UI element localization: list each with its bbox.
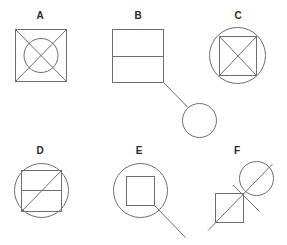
- figure-d-label: D: [36, 146, 43, 156]
- figure-b[interactable]: [113, 30, 217, 138]
- figure-e-label: E: [136, 146, 143, 156]
- figure-e[interactable]: [114, 164, 186, 238]
- figure-f-cross-line: [233, 185, 260, 212]
- figure-c-label: C: [234, 11, 241, 21]
- figure-e-tail-line: [155, 206, 186, 238]
- figure-c[interactable]: [210, 28, 266, 84]
- figure-a-label: A: [36, 11, 43, 21]
- figure-f-circle: [240, 162, 274, 196]
- figure-e-square: [127, 177, 155, 206]
- figure-a[interactable]: [16, 30, 67, 82]
- figure-b-label: B: [134, 11, 141, 21]
- figure-f[interactable]: [208, 162, 274, 231]
- figure-d[interactable]: [15, 164, 69, 218]
- figure-b-circle: [183, 104, 217, 138]
- figure-options-diagram: A B C D E F: [0, 0, 287, 245]
- figure-e-circle: [114, 164, 168, 218]
- figure-b-connector-line: [164, 83, 189, 108]
- figure-f-label: F: [234, 146, 240, 156]
- figures-svg: [0, 0, 287, 245]
